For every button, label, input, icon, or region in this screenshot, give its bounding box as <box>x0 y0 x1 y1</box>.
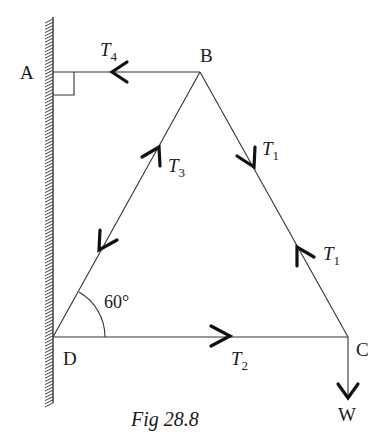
figure-caption: Fig 28.8 <box>130 408 199 431</box>
label-A: A <box>20 62 34 83</box>
label-C: C <box>356 339 369 360</box>
label-T3: T3 <box>168 155 185 180</box>
arrow-T2-right-icon <box>211 326 230 346</box>
angle-arc-60 <box>79 292 105 337</box>
arrow-T1-up-icon <box>297 247 314 266</box>
label-T2: T2 <box>231 348 248 373</box>
label-W: W <box>338 404 356 425</box>
arrow-T1-down-icon <box>237 147 255 167</box>
label-angle: 60° <box>104 292 129 312</box>
label-D: D <box>63 348 77 369</box>
arrow-T3-down-icon <box>99 230 117 250</box>
arrow-T3-up-icon <box>142 147 160 166</box>
truss-diagram: A B C D T4 T3 T1 T1 T2 W 60° Fig 28.8 <box>0 0 390 445</box>
label-B: B <box>200 45 213 66</box>
member-BC <box>200 72 348 337</box>
right-angle-marker <box>53 72 74 95</box>
label-T1-upper: T1 <box>262 138 279 163</box>
wall <box>45 17 53 407</box>
label-T4: T4 <box>100 39 118 64</box>
label-T1-lower: T1 <box>323 243 340 268</box>
wall-hatching <box>45 19 53 407</box>
